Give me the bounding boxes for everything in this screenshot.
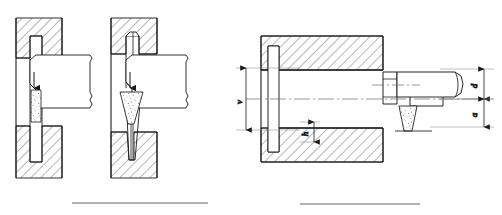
view-a-lower-die: [16, 126, 62, 178]
view-c-detail-billet: [395, 106, 432, 131]
view-a-billet: [31, 90, 41, 122]
technical-drawing-svg: v h d a: [0, 0, 502, 215]
dimension-label-d: d: [469, 83, 479, 88]
view-c-punch-rod: [397, 72, 463, 106]
view-b-middle: [111, 18, 188, 178]
dimension-label-a: a: [469, 112, 479, 117]
view-a-left: [16, 18, 92, 178]
view-b-lower-die: [111, 132, 157, 178]
view-a-upper-die: [16, 18, 62, 58]
dimension-label-h: h: [300, 131, 310, 136]
dimension-label-v: v: [234, 100, 244, 104]
drawing-canvas: v h d a: [0, 0, 502, 215]
